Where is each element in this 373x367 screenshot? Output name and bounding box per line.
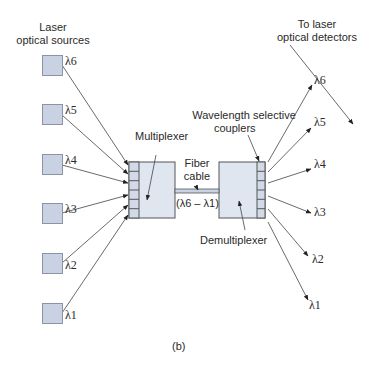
sources-title-line1: Laser — [12, 21, 94, 34]
wdm-diagram: λ6 λ5 λ4 λ3 λ2 λ1 λ6 λ5 λ4 λ3 λ2 λ1 Lase… — [0, 0, 373, 367]
source-label-2: λ2 — [65, 258, 77, 273]
couplers-label: Wavelength selective couplers — [192, 109, 296, 135]
fiber-label-line2: cable — [180, 170, 214, 183]
source-label-5: λ5 — [65, 103, 77, 118]
source-label-1: λ1 — [65, 308, 77, 323]
demultiplexer-label: Demultiplexer — [200, 234, 267, 247]
detectors-title-line2: optical detectors — [276, 31, 358, 44]
demultiplexer-block — [219, 162, 265, 218]
sources-title-line2: optical sources — [12, 34, 94, 47]
multiplexer-block — [129, 162, 175, 218]
multiplexer-label: Multiplexer — [135, 130, 188, 143]
fiber-wavelength-range: (λ6 – λ1) — [176, 197, 219, 210]
laser-source-6 — [42, 55, 63, 76]
source-label-6: λ6 — [65, 54, 77, 69]
laser-source-2 — [42, 253, 63, 274]
couplers-label-line2: couplers — [192, 122, 296, 135]
source-label-4: λ4 — [65, 153, 77, 168]
laser-source-4 — [42, 154, 63, 175]
fiber-label-line1: Fiber — [180, 157, 214, 170]
detectors-title: To laser optical detectors — [276, 18, 358, 44]
laser-source-1 — [42, 303, 63, 324]
output-label-6: λ6 — [314, 73, 326, 88]
output-label-3: λ3 — [314, 205, 326, 220]
figure-caption: (b) — [172, 340, 185, 353]
output-label-2: λ2 — [312, 252, 324, 267]
laser-source-3 — [42, 203, 63, 224]
detectors-title-line1: To laser — [276, 18, 358, 31]
fiber-cable — [175, 189, 219, 193]
couplers-label-line1: Wavelength selective — [192, 109, 296, 122]
fiber-cable-label: Fiber cable — [180, 157, 214, 183]
laser-source-5 — [42, 104, 63, 125]
sources-title: Laser optical sources — [12, 21, 94, 47]
source-label-3: λ3 — [65, 202, 77, 217]
output-label-1: λ1 — [309, 298, 321, 313]
output-label-5: λ5 — [314, 115, 326, 130]
output-label-4: λ4 — [314, 157, 326, 172]
